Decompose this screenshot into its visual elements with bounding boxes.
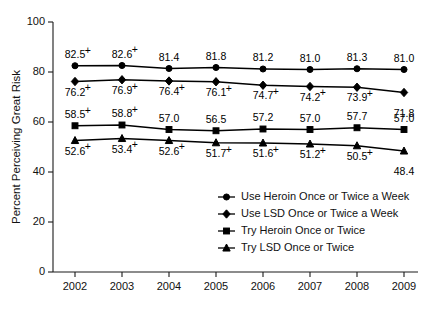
significance-plus-icon: +: [85, 81, 91, 93]
data-point-value: 81.8: [206, 50, 227, 62]
data-point-marker: [166, 127, 172, 133]
data-point-label: 74.7+: [253, 85, 279, 101]
data-point-label: 82.6+: [112, 43, 138, 59]
data-point-value: 57.2: [253, 111, 274, 123]
data-point-value: 53.4: [112, 143, 133, 155]
data-point-label: 76.4+: [159, 81, 185, 97]
data-point-label: 74.2+: [300, 86, 326, 102]
data-point-value: 81.4: [159, 51, 180, 63]
line-chart: 0204060801002002200320042005200620072008…: [0, 0, 425, 310]
significance-plus-icon: +: [85, 104, 91, 116]
significance-plus-icon: +: [367, 87, 373, 99]
significance-plus-icon: +: [226, 143, 232, 155]
legend-item: Use LSD Once or Twice a Week: [218, 207, 399, 219]
x-axis-tick-label: 2005: [204, 280, 228, 292]
data-point-marker: [401, 66, 407, 72]
data-point-marker: [259, 81, 266, 89]
legend-marker-circle-icon: [223, 194, 229, 200]
data-point-marker: [306, 82, 313, 90]
data-point-value: 48.4: [394, 165, 415, 177]
data-point-marker: [72, 63, 78, 69]
data-point-label: 57.0: [394, 112, 415, 124]
data-point-value: 52.6: [159, 145, 180, 157]
legend-marker-square-icon: [224, 228, 230, 234]
x-axis-tick-label: 2002: [63, 280, 87, 292]
data-point-value: 74.2: [300, 91, 321, 103]
data-point-marker: [71, 77, 78, 85]
data-point-value: 56.5: [206, 113, 227, 125]
legend-label: Use Heroin Once or Twice a Week: [241, 190, 410, 202]
data-point-value: 58.5: [65, 108, 86, 120]
data-point-marker: [212, 78, 219, 86]
data-point-marker: [353, 83, 360, 91]
data-point-value: 58.8: [112, 107, 133, 119]
data-point-label: 76.9+: [112, 80, 138, 96]
data-point-label: 58.5+: [65, 104, 91, 120]
data-point-value: 81.2: [253, 51, 274, 63]
data-point-label: 57.0: [159, 112, 180, 124]
significance-plus-icon: +: [273, 85, 279, 97]
significance-plus-icon: +: [226, 82, 232, 94]
data-point-marker: [400, 88, 407, 96]
significance-plus-icon: +: [85, 140, 91, 152]
significance-plus-icon: +: [132, 138, 138, 150]
significance-plus-icon: +: [85, 44, 91, 56]
data-point-marker: [260, 126, 266, 132]
data-point-label: 81.8: [206, 50, 227, 62]
data-point-marker: [401, 127, 407, 133]
data-point-marker: [119, 62, 125, 68]
data-point-label: 57.7: [347, 110, 368, 122]
legend-label: Try LSD Once or Twice: [241, 241, 354, 253]
data-point-value: 73.9: [347, 91, 368, 103]
data-point-marker: [72, 123, 78, 129]
data-point-value: 82.5: [65, 48, 86, 60]
data-point-value: 50.5: [347, 150, 368, 162]
significance-plus-icon: +: [132, 80, 138, 92]
x-axis-tick-label: 2004: [157, 280, 181, 292]
data-point-marker: [118, 76, 125, 84]
data-point-label: 81.4: [159, 51, 180, 63]
x-axis-tick-label: 2008: [345, 280, 369, 292]
data-point-marker: [119, 122, 125, 128]
data-point-value: 76.1: [206, 86, 227, 98]
legend-item: Try Heroin Once or Twice: [218, 224, 365, 236]
data-point-marker: [166, 65, 172, 71]
legend-label: Try Heroin Once or Twice: [241, 224, 365, 236]
y-axis-tick-label: 40: [33, 165, 45, 177]
significance-plus-icon: +: [179, 140, 185, 152]
data-point-value: 76.9: [112, 84, 133, 96]
data-point-label: 81.0: [300, 52, 321, 64]
y-axis-title: Percent Perceiving Great Risk: [10, 70, 22, 224]
data-point-value: 81.0: [300, 52, 321, 64]
data-point-value: 76.2: [65, 86, 86, 98]
data-point-marker: [354, 125, 360, 131]
data-point-label: 82.5+: [65, 44, 91, 60]
significance-plus-icon: +: [367, 146, 373, 158]
data-point-value: 57.0: [394, 112, 415, 124]
y-axis-tick-label: 100: [27, 15, 45, 27]
data-point-label: 81.3: [347, 51, 368, 63]
y-axis-tick-label: 20: [33, 215, 45, 227]
significance-plus-icon: +: [320, 144, 326, 156]
y-axis-tick-label: 80: [33, 65, 45, 77]
data-point-label: 48.4: [394, 165, 415, 177]
data-point-value: 51.2: [300, 148, 321, 160]
y-axis-tick-label: 0: [39, 265, 45, 277]
significance-plus-icon: +: [320, 86, 326, 98]
significance-plus-icon: +: [132, 103, 138, 115]
data-point-value: 57.0: [300, 112, 321, 124]
data-point-value: 81.3: [347, 51, 368, 63]
y-axis-tick-label: 60: [33, 115, 45, 127]
data-point-value: 81.0: [394, 52, 415, 64]
data-point-label: 76.1+: [206, 82, 232, 98]
data-point-label: 57.2: [253, 111, 274, 123]
legend-item: Use Heroin Once or Twice a Week: [218, 190, 410, 202]
data-point-value: 57.7: [347, 110, 368, 122]
legend-label: Use LSD Once or Twice a Week: [241, 207, 399, 219]
data-point-label: 73.9+: [347, 87, 373, 103]
data-point-marker: [213, 64, 219, 70]
data-point-value: 76.4: [159, 85, 180, 97]
data-point-value: 74.7: [253, 89, 274, 101]
data-point-label: 81.0: [394, 52, 415, 64]
x-axis-tick-label: 2009: [392, 280, 416, 292]
